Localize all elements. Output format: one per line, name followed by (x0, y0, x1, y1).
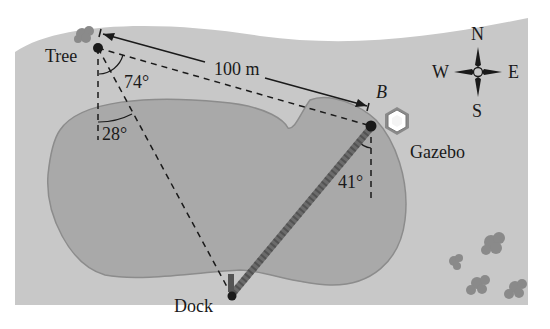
angle-74-label: 74° (124, 72, 149, 92)
compass-south-label: S (472, 101, 482, 121)
tree-point (93, 43, 103, 53)
b-label: B (376, 82, 387, 102)
dock-post (228, 274, 234, 292)
gazebo-label: Gazebo (410, 142, 465, 162)
dock-point (228, 292, 237, 301)
distance-label: 100 m (214, 59, 260, 79)
lake-navigation-diagram: Tree 100 m 74° 28° B Gazebo 41° Dock N S… (0, 0, 550, 329)
compass-north-label: N (471, 24, 484, 44)
compass-east-label: E (508, 62, 519, 82)
compass-west-label: W (432, 62, 449, 82)
dock-label: Dock (174, 296, 213, 316)
angle-28-label: 28° (102, 124, 127, 144)
angle-41-label: 41° (338, 172, 363, 192)
tree-label: Tree (45, 46, 77, 66)
b-point (366, 121, 377, 132)
